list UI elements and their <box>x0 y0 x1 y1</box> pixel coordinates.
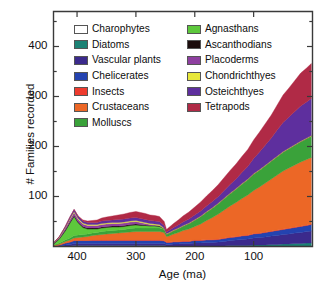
x-tick-label: 400 <box>47 250 107 262</box>
y-tick-label: 300 <box>0 89 48 101</box>
stacked-area-group <box>54 64 312 247</box>
plot-svg <box>0 0 324 291</box>
x-tick-label: 200 <box>165 250 225 262</box>
chart-figure: # Families recorded Age (ma) Charophytes… <box>0 0 324 291</box>
y-tick-label: 100 <box>0 189 48 201</box>
x-tick-label: 300 <box>106 250 166 262</box>
y-tick-label: 200 <box>0 139 48 151</box>
y-tick-label: 400 <box>0 39 48 51</box>
x-tick-label: 100 <box>224 250 284 262</box>
